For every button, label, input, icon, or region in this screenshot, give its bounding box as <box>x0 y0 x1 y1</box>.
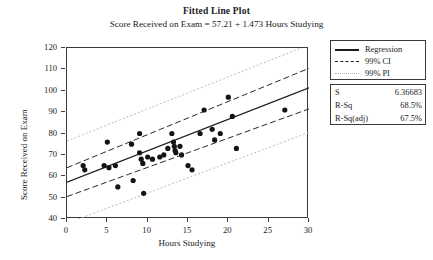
y-tick-mark <box>61 197 65 198</box>
plot-area <box>66 47 308 218</box>
stat-value: 68.5% <box>400 99 422 112</box>
legend-label: 99% PI <box>365 68 390 80</box>
stat-value: 6.36683 <box>395 86 422 99</box>
data-point <box>150 157 155 162</box>
data-point <box>165 146 170 151</box>
data-point <box>230 114 235 119</box>
x-tick-label: 5 <box>94 226 118 235</box>
legend-swatch-solid <box>335 49 359 51</box>
y-tick-mark <box>61 218 65 219</box>
legend-entry: 99% CI <box>335 56 425 68</box>
prediction-interval-upper <box>67 48 309 141</box>
data-point <box>106 165 111 170</box>
y-tick-mark <box>61 90 65 91</box>
data-point <box>177 144 182 149</box>
data-point <box>198 131 203 136</box>
y-tick-mark <box>61 111 65 112</box>
data-point <box>82 167 87 172</box>
y-tick-label: 110 <box>31 64 57 73</box>
stat-row: S6.36683 <box>331 86 427 99</box>
y-tick-mark <box>61 154 65 155</box>
y-axis-label: Score Received on Exam <box>19 109 29 200</box>
data-point <box>189 167 194 172</box>
data-point <box>169 131 174 136</box>
data-point <box>210 127 215 132</box>
y-tick-label: 80 <box>31 129 57 138</box>
chart-title: Fitted Line Plot <box>0 6 433 16</box>
y-tick-label: 120 <box>31 43 57 52</box>
y-tick-label: 100 <box>31 86 57 95</box>
chart-subtitle: Score Received on Exam = 57.21 + 1.473 H… <box>0 19 433 29</box>
fitted-line-plot-figure: Fitted Line Plot Score Received on Exam … <box>0 0 433 260</box>
x-tick-label: 15 <box>175 226 199 235</box>
y-tick-label: 90 <box>31 107 57 116</box>
data-point <box>137 150 142 155</box>
data-point <box>179 152 184 157</box>
data-point <box>140 161 145 166</box>
data-point <box>145 154 150 159</box>
data-point <box>173 150 178 155</box>
data-point <box>282 107 287 112</box>
y-tick-mark <box>61 47 65 48</box>
data-point <box>212 137 217 142</box>
stat-row: R-Sq68.5% <box>331 99 427 112</box>
data-point <box>185 163 190 168</box>
statistics-box: S6.36683R-Sq68.5%R-Sq(adj)67.5% <box>330 84 426 125</box>
x-tick-label: 10 <box>135 226 159 235</box>
data-point <box>141 191 146 196</box>
y-tick-mark <box>61 133 65 134</box>
plot-canvas <box>67 48 309 219</box>
stat-key: R-Sq(adj) <box>335 112 368 125</box>
legend-label: Regression <box>365 44 402 56</box>
data-point <box>131 178 136 183</box>
data-point <box>102 163 107 168</box>
data-point <box>105 139 110 144</box>
data-point <box>115 184 120 189</box>
prediction-interval-lower <box>67 132 309 219</box>
data-point <box>218 131 223 136</box>
data-point <box>113 163 118 168</box>
x-tick-label: 30 <box>296 226 320 235</box>
data-point <box>226 95 231 100</box>
x-tick-label: 0 <box>54 226 78 235</box>
y-tick-label: 40 <box>31 214 57 223</box>
legend-entry: 99% PI <box>335 68 425 80</box>
legend-entry: Regression <box>335 44 425 56</box>
x-axis-label: Hours Studying <box>66 238 308 248</box>
legend-swatch-dotted <box>335 73 359 74</box>
x-tick-label: 25 <box>256 226 280 235</box>
legend-label: 99% CI <box>365 56 391 68</box>
data-point <box>137 131 142 136</box>
legend: Regression99% CI99% PI <box>330 40 426 80</box>
y-tick-label: 50 <box>31 193 57 202</box>
y-tick-label: 60 <box>31 171 57 180</box>
data-point <box>129 142 134 147</box>
data-point <box>161 152 166 157</box>
data-point <box>234 146 239 151</box>
y-tick-label: 70 <box>31 150 57 159</box>
stat-key: R-Sq <box>335 99 352 112</box>
legend-swatch-dashed <box>335 61 359 62</box>
y-tick-mark <box>61 68 65 69</box>
x-tick-label: 20 <box>215 226 239 235</box>
y-tick-mark <box>61 175 65 176</box>
data-point <box>202 107 207 112</box>
stat-row: R-Sq(adj)67.5% <box>331 112 427 125</box>
stat-value: 67.5% <box>400 112 422 125</box>
stat-key: S <box>335 86 340 99</box>
